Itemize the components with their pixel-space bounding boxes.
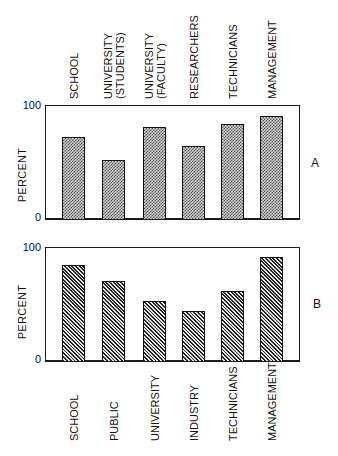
category-label-line: UNIVERSITY [143,33,155,99]
b-ytick-0: 0 [19,354,41,365]
category-label-line: RESEARCHERS [188,15,200,99]
a-y-axis-label: PERCENT [16,148,28,203]
a-ytick-0: 0 [19,212,41,223]
a-bar-6 [260,116,283,219]
a-bar-3 [143,127,166,219]
a-bar-1 [62,137,85,219]
a-bar-5 [221,124,244,219]
b-bar-1 [62,265,85,361]
category-label-line: (STUDENTS) [114,32,126,99]
category-label-line: SCHOOL [68,53,80,99]
b-panel-label: B [313,297,321,311]
category-label-line: TECHNICIANS [227,24,239,99]
b-bar-6 [260,257,283,361]
category-label-line: TECHNICIANS [227,366,239,441]
a-panel-label: A [311,156,319,170]
category-label-line: UNIVERSITY [149,375,161,441]
b-bar-5 [221,291,244,361]
category-label-line: (FACULTY) [155,33,167,99]
b-ytick-100: 100 [19,242,41,253]
category-label-line: INDUSTRY [188,385,200,441]
b-bar-4 [182,311,205,361]
category-label-line: MANAGEMENT [266,20,278,99]
category-label-line: UNIVERSITY [102,32,114,99]
category-label-line: MANAGEMENT [266,362,278,441]
a-ytick-100: 100 [19,100,41,111]
b-bar-2 [102,281,125,361]
b-y-axis-label: PERCENT [16,285,28,340]
category-label-line: SCHOOL [68,395,80,441]
a-bar-4 [182,146,205,219]
a-bar-2 [102,160,125,219]
category-label-line: PUBLIC [108,401,120,441]
b-bar-3 [143,301,166,361]
